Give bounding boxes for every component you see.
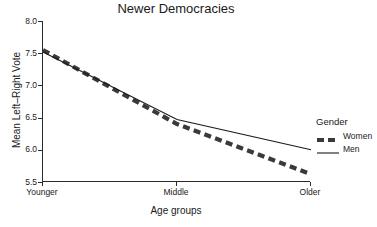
x-axis-tick-label: Middle: [136, 187, 216, 197]
x-axis-tick-mark: [310, 182, 311, 186]
y-axis-tick-label: 7.0: [0, 81, 42, 90]
legend: Gender Women Men: [316, 116, 377, 156]
legend-item-men[interactable]: Men: [316, 143, 377, 155]
legend-key-women-dashed-line: [316, 131, 340, 141]
y-axis-tick-label: 7.5: [0, 49, 42, 58]
chart-title: Newer Democracies: [42, 1, 310, 17]
x-axis-tick-mark: [176, 182, 177, 186]
y-axis-tick-label: 5.5: [0, 178, 42, 187]
x-axis-title: Age groups: [42, 205, 310, 217]
legend-key-men-solid-line: [316, 144, 340, 154]
plot-lines: [43, 21, 311, 182]
legend-item-women[interactable]: Women: [316, 130, 377, 142]
y-axis-tick-label: 8.0: [0, 17, 42, 26]
y-axis-tick-label: 6.5: [0, 113, 42, 122]
x-axis-tick-label: Younger: [2, 187, 82, 197]
chart-figure: Newer Democracies Mean Left–Right Vote A…: [0, 0, 377, 227]
series-line-men: [43, 52, 311, 150]
x-axis-tick-mark: [42, 182, 43, 186]
y-axis-tick-label: 6.0: [0, 145, 42, 154]
legend-title: Gender: [316, 116, 377, 128]
plot-area: [42, 21, 310, 182]
x-axis-tick-label: Older: [270, 187, 350, 197]
y-axis-title: Mean Left–Right Vote: [11, 20, 23, 180]
series-line-women: [43, 50, 311, 174]
legend-label-men: Men: [343, 144, 360, 154]
legend-label-women: Women: [343, 131, 372, 141]
